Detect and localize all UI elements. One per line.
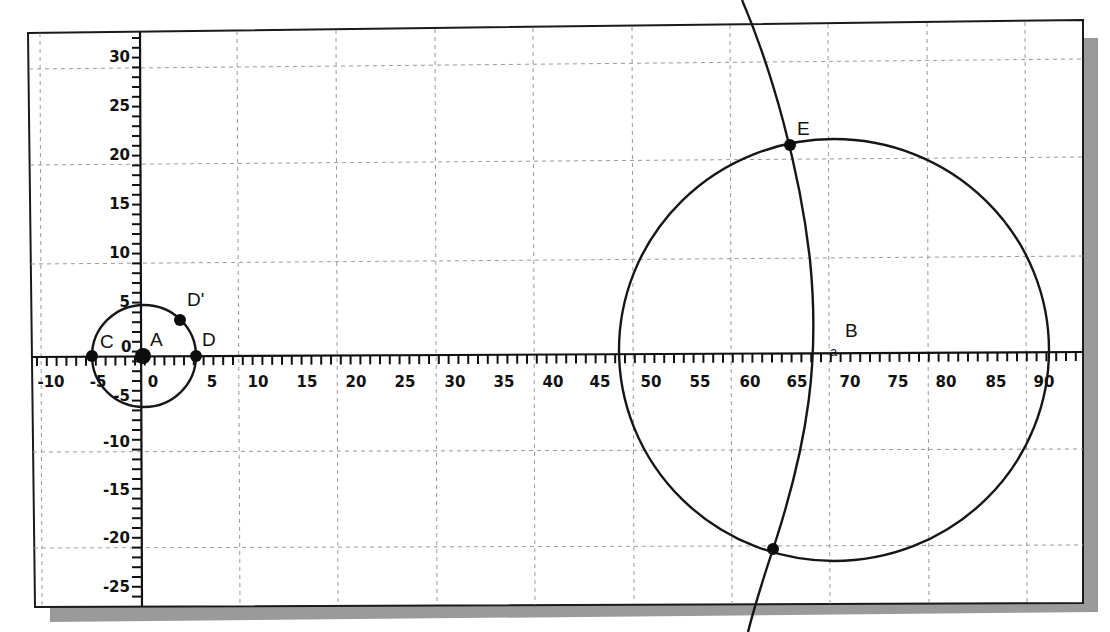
- x-tick-label: 40: [543, 373, 564, 391]
- point-a-label: A: [150, 329, 163, 350]
- x-tick-label: 75: [888, 373, 909, 391]
- x-tick-label: 25: [395, 373, 416, 391]
- y-tick-label: 30: [109, 48, 130, 66]
- x-tick-label: 70: [840, 373, 861, 391]
- y-axis-zero-label: 0: [121, 338, 131, 356]
- x-tick-label: 80: [936, 373, 957, 391]
- graph-frame: [28, 20, 1083, 607]
- point-e-label: E: [797, 118, 810, 139]
- point-d[interactable]: [190, 350, 202, 362]
- x-tick-label: 60: [740, 373, 761, 391]
- x-tick-label: 10: [248, 373, 269, 391]
- y-tick-label: 20: [109, 146, 130, 164]
- x-tick-label: 55: [690, 373, 711, 391]
- point-b-label: B: [845, 320, 858, 341]
- x-tick-label: 50: [641, 373, 662, 391]
- x-tick-label: 15: [297, 373, 318, 391]
- point-b-marker[interactable]: a: [830, 344, 838, 359]
- y-tick-label: 15: [109, 195, 130, 213]
- point-c[interactable]: [86, 350, 98, 362]
- point-d-prime-label: D': [187, 289, 204, 310]
- x-tick-label: 35: [494, 373, 515, 391]
- point-a[interactable]: [135, 348, 151, 364]
- x-tick-label: -10: [37, 373, 64, 391]
- y-tick-label: -20: [103, 529, 130, 547]
- x-tick-label: 30: [445, 373, 466, 391]
- point-d-prime[interactable]: [174, 314, 186, 326]
- y-tick-label: -15: [103, 481, 130, 499]
- y-tick-label: 10: [109, 244, 130, 262]
- x-tick-label: 65: [787, 373, 808, 391]
- point-d-label: D: [202, 329, 216, 350]
- x-tick-label: 85: [986, 373, 1007, 391]
- point-e[interactable]: [784, 139, 796, 151]
- x-tick-label: 0: [148, 373, 158, 391]
- x-tick-label: 5: [207, 373, 217, 391]
- x-tick-label: 45: [590, 373, 611, 391]
- x-tick-label: 90: [1034, 373, 1055, 391]
- point-c-label: C: [100, 331, 114, 352]
- y-tick-label: -25: [103, 578, 130, 596]
- y-tick-label: -10: [103, 433, 130, 451]
- y-tick-label: 25: [109, 97, 130, 115]
- point-lower-intersection[interactable]: [767, 543, 779, 555]
- x-tick-label: 20: [346, 373, 367, 391]
- geometry-canvas[interactable]: -10-505101520253035404550556065707580859…: [0, 0, 1110, 632]
